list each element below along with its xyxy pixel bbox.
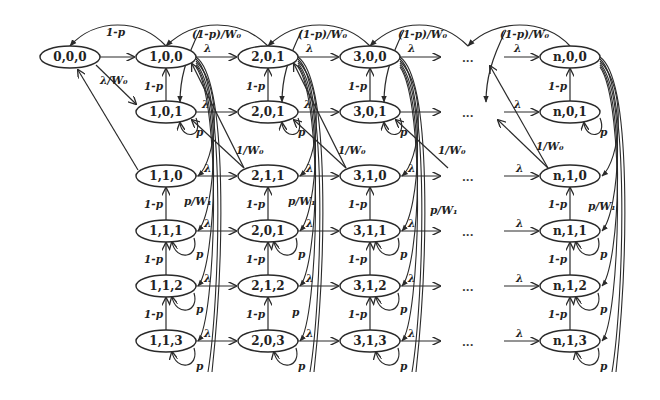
state-label: n,1,2 <box>553 279 587 293</box>
lbl-1-over-w0: 1/W₀ <box>338 144 366 156</box>
label-lambda-over-w0: λ/W₀ <box>99 74 128 86</box>
lbl-lambda: λ <box>407 42 415 54</box>
label-1-p-top: 1-p <box>106 26 126 38</box>
state-label: 2,0,1 <box>251 50 284 64</box>
state-label: 1,1,1 <box>149 224 182 238</box>
state-label: 3,1,2 <box>353 279 386 293</box>
state-node: 3,1,2 <box>340 275 400 297</box>
state-label: 1,0,0 <box>149 50 182 64</box>
lbl-1-p: 1-p <box>348 80 368 92</box>
state-node: 3,1,1 <box>340 220 400 242</box>
state-node: 2,0,1 <box>238 220 298 242</box>
state-label: 0,0,0 <box>53 50 86 64</box>
lbl-1-over-w0: 1/W₀ <box>236 144 264 156</box>
ellipsis: ... <box>462 52 474 65</box>
state-node-0-0-0: 0,0,0 <box>40 46 100 68</box>
lbl-p: p <box>196 360 204 372</box>
state-node: 2,0,1 <box>238 46 298 68</box>
state-node: 3,1,3 <box>340 330 400 352</box>
markov-chain-diagram: 1-p (1-p)/W₀ (1-p)/W₀ (1-p)/W₀ (1-p)/W₀ <box>0 0 660 400</box>
state-label: n,1,0 <box>553 169 587 183</box>
lbl-1-p: 1-p <box>548 253 568 265</box>
label-1-p-over-w0-4: (1-p)/W₀ <box>500 28 550 40</box>
label-1-p-over-w0-1: (1-p)/W₀ <box>192 28 242 40</box>
lbl-p: p <box>298 248 306 260</box>
state-node: 1,1,2 <box>136 275 196 297</box>
lbl-lambda: λ <box>515 327 523 339</box>
ellipsis: ... <box>462 336 474 349</box>
lbl-p: p <box>600 360 608 372</box>
state-node: 1,1,3 <box>136 330 196 352</box>
lbl-1-p: 1-p <box>246 198 266 210</box>
state-node: n,1,1 <box>540 220 600 242</box>
lbl-1-p: 1-p <box>144 198 164 210</box>
lbl-lambda: λ <box>515 217 523 229</box>
lbl-1-p: 1-p <box>246 253 266 265</box>
lbl-lambda: λ <box>305 327 313 339</box>
state-node: 1,1,1 <box>136 220 196 242</box>
state-label: 3,1,3 <box>353 334 386 348</box>
state-label: 3,0,1 <box>353 105 386 119</box>
lbl-p: p <box>600 126 608 138</box>
state-node: 2,1,1 <box>238 165 298 187</box>
lbl-1-p: 1-p <box>348 308 368 320</box>
lbl-lambda: λ <box>203 42 211 54</box>
lbl-lambda: λ <box>513 42 521 54</box>
state-node: 1,1,0 <box>136 165 196 187</box>
lbl-lambda: λ <box>407 327 415 339</box>
lbl-1-p: 1-p <box>348 198 368 210</box>
lbl-1-p: 1-p <box>246 80 266 92</box>
ellipsis: ... <box>462 281 474 294</box>
lbl-1-p: 1-p <box>548 80 568 92</box>
lbl-p: p <box>292 306 300 318</box>
state-label: 1,0,1 <box>149 105 182 119</box>
state-label: n,0,1 <box>553 105 587 119</box>
lbl-p-over-w1: p/W₁ <box>430 204 458 216</box>
lbl-p: p <box>298 360 306 372</box>
state-node: n,1,0 <box>540 165 600 187</box>
state-node: 2,1,2 <box>238 275 298 297</box>
lbl-p-over-w1: p/W₁ <box>588 200 616 212</box>
lbl-p: p <box>600 248 608 260</box>
lbl-1-p: 1-p <box>246 308 266 320</box>
label-1-p-over-w0-3: (1-p)/W₀ <box>398 28 448 40</box>
lbl-p: p <box>400 248 408 260</box>
state-label: n,0,0 <box>553 50 587 64</box>
state-label: 3,1,1 <box>353 224 386 238</box>
state-label: 1,1,0 <box>149 169 182 183</box>
state-label: 2,1,2 <box>251 279 284 293</box>
state-label: 2,1,1 <box>251 169 284 183</box>
state-node: 3,0,0 <box>340 46 400 68</box>
lbl-1-p: 1-p <box>548 308 568 320</box>
state-node: n,1,2 <box>540 275 600 297</box>
state-label: 2,0,3 <box>251 334 284 348</box>
lbl-p: p <box>600 303 608 315</box>
ellipsis-column: ... ... ... ... ... ... <box>462 52 474 349</box>
ellipsis: ... <box>462 171 474 184</box>
state-node: 3,0,1 <box>340 101 400 123</box>
lbl-p: p <box>400 360 408 372</box>
state-node: 2,0,3 <box>238 330 298 352</box>
state-node: 3,1,0 <box>340 165 400 187</box>
lbl-1-p: 1-p <box>348 253 368 265</box>
state-label: 1,1,2 <box>149 279 182 293</box>
lbl-1-p: 1-p <box>548 198 568 210</box>
state-label: n,1,1 <box>553 224 587 238</box>
state-node: n,0,0 <box>540 46 600 68</box>
state-label: 3,1,0 <box>353 169 386 183</box>
state-node: n,1,3 <box>540 330 600 352</box>
lbl-p-over-w1: p/W₁ <box>184 195 212 207</box>
lbl-lambda: λ <box>203 327 211 339</box>
lbl-p: p <box>196 303 204 315</box>
state-node: 1,0,1 <box>136 101 196 123</box>
lbl-lambda: λ <box>515 162 523 174</box>
lbl-1-p: 1-p <box>144 308 164 320</box>
lbl-lambda: λ <box>515 272 523 284</box>
ellipsis: ... <box>462 107 474 120</box>
state-label: 2,0,1 <box>251 224 284 238</box>
lbl-p: p <box>400 303 408 315</box>
state-label: 3,0,0 <box>353 50 386 64</box>
lbl-p: p <box>196 248 204 260</box>
lbl-1-over-w0: 1/W₀ <box>438 144 466 156</box>
label-1-p-over-w0-2: (1-p)/W₀ <box>298 28 348 40</box>
